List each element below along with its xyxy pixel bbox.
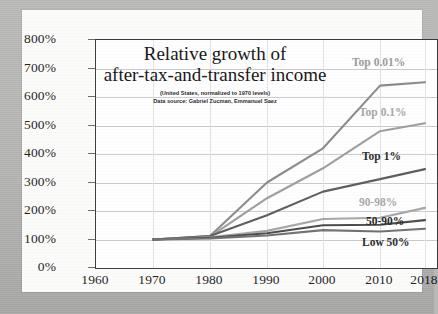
- y-axis-tick-label: 400%: [24, 145, 56, 161]
- y-axis-tick-mark: [88, 153, 95, 154]
- y-axis-tick-label: 300%: [24, 174, 56, 190]
- x-axis-tick-label: 2018: [410, 272, 437, 288]
- y-axis-tick-label: 500%: [24, 117, 56, 133]
- y-axis-tick-mark: [88, 68, 95, 69]
- y-axis-tick-mark: [88, 267, 95, 268]
- series-label-90-98: 90-98%: [359, 196, 397, 208]
- x-axis-tick-label: 2000: [308, 272, 335, 288]
- x-axis-tick-label: 1980: [195, 272, 222, 288]
- chart-card: 0%100%200%300%400%500%600%700%800% 19601…: [22, 10, 422, 292]
- y-axis-tick-label: 200%: [24, 202, 56, 218]
- y-axis-tick-mark: [88, 210, 95, 211]
- y-axis-tick-label: 800%: [24, 31, 56, 47]
- chart-subtitle: (United States, normalized to 1970 level…: [100, 89, 330, 105]
- y-axis-tick-label: 700%: [24, 60, 56, 76]
- y-axis-tick-mark: [88, 239, 95, 240]
- y-axis-tick-label: 600%: [24, 88, 56, 104]
- y-axis-tick-mark: [88, 125, 95, 126]
- series-label-50-90: 50-90%: [366, 215, 404, 227]
- x-axis-tick-label: 1990: [252, 272, 279, 288]
- chart-title-line2: after-tax-and-transfer income: [100, 64, 330, 85]
- chart-subtitle-line2: Data source: Gabriel Zucman, Emmanuel Sa…: [100, 97, 330, 105]
- series-label-low-50: Low 50%: [362, 236, 410, 248]
- y-axis-tick-mark: [88, 182, 95, 183]
- x-axis-tick-label: 1970: [138, 272, 165, 288]
- chart-subtitle-line1: (United States, normalized to 1970 level…: [100, 89, 330, 97]
- series-label-top-0-01: Top 0.01%: [352, 56, 405, 68]
- y-axis-tick-mark: [88, 96, 95, 97]
- series-label-top-0-1: Top 0.1%: [359, 106, 407, 118]
- x-axis-tick-label: 2010: [365, 272, 392, 288]
- chart-title-block: Relative growth of after-tax-and-transfe…: [100, 43, 330, 105]
- y-axis-tick-label: 100%: [24, 231, 56, 247]
- series-label-top-1: Top 1%: [362, 150, 401, 162]
- y-axis-tick-mark: [88, 39, 95, 40]
- x-axis-tick-label: 1960: [81, 272, 108, 288]
- y-axis-tick-label: 0%: [38, 259, 56, 275]
- chart-title-line1: Relative growth of: [100, 43, 330, 64]
